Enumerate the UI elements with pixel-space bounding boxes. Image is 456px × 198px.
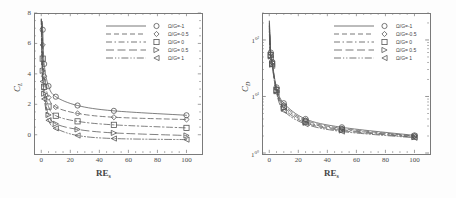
- x-tick-label: 100: [179, 156, 193, 164]
- x-tick-label: 40: [92, 156, 106, 164]
- x-tick-label: 80: [150, 156, 164, 164]
- legend-marker-triangle-left: [152, 54, 161, 62]
- legend-marker-circle: [152, 22, 161, 30]
- legend-line-sample: [106, 26, 146, 27]
- legend-label: Ω/G= 1: [396, 54, 412, 62]
- legend-marker-square: [152, 38, 161, 46]
- legend-line-sample: [334, 26, 374, 27]
- legend-label: Ω/G= 0: [396, 38, 412, 46]
- legend-marker-circle: [380, 22, 389, 30]
- legend-label: Ω/G= 0.5: [168, 46, 188, 54]
- y-tick-label: 10⁰: [242, 149, 259, 159]
- x-tick-label: 100: [407, 156, 421, 164]
- legend-line-sample: [334, 34, 374, 35]
- x-tick-label: 0: [262, 156, 276, 164]
- legend-line-sample: [106, 34, 146, 35]
- y-tick-label: 4: [21, 70, 31, 78]
- legend-marker-square: [380, 38, 389, 46]
- legend-label: Ω/G=-0.5: [396, 30, 417, 38]
- x-tick-label: 60: [349, 156, 363, 164]
- x-tick-label: 20: [63, 156, 77, 164]
- x-tick-label: 0: [34, 156, 48, 164]
- legend-label: Ω/G=-1: [396, 22, 412, 30]
- panel-lift-coefficient: 02040608010002468 CL REs Ω/G=-1Ω/G=-0.5Ω…: [0, 0, 228, 198]
- legend-label: Ω/G= 0: [168, 38, 184, 46]
- legend-marker-triangle-right: [380, 46, 389, 54]
- y-tick-label: 0: [21, 131, 31, 139]
- panel-drag-coefficient: 02040608010010⁰10¹10² CD REs Ω/G=-1Ω/G=-…: [228, 0, 456, 198]
- y-tick-label: 6: [21, 39, 31, 47]
- x-axis-label-drag: REs: [324, 168, 339, 179]
- legend-label: Ω/G= 0.5: [396, 46, 416, 54]
- y-tick-label: 8: [21, 9, 31, 17]
- x-tick-label: 60: [121, 156, 135, 164]
- figure-container: 02040608010002468 CL REs Ω/G=-1Ω/G=-0.5Ω…: [0, 0, 456, 198]
- legend-label: Ω/G=-1: [168, 22, 184, 30]
- legend-marker-triangle-left: [380, 54, 389, 62]
- y-tick-label: 10¹: [242, 92, 259, 101]
- legend-line-sample: [106, 50, 146, 51]
- legend-line-sample: [106, 58, 146, 59]
- plot-canvas-lift: [0, 0, 228, 198]
- legend-line-sample: [334, 50, 374, 51]
- y-axis-label-lift: CL: [12, 83, 23, 92]
- legend-marker-diamond: [380, 30, 389, 38]
- x-tick-label: 80: [378, 156, 392, 164]
- legend-marker-triangle-right: [152, 46, 161, 54]
- legend-line-sample: [334, 42, 374, 43]
- plot-canvas-drag: [228, 0, 456, 198]
- x-tick-label: 20: [291, 156, 305, 164]
- y-tick-label: 10²: [242, 36, 259, 45]
- y-axis-label-drag: CD: [240, 82, 251, 92]
- legend-line-sample: [334, 58, 374, 59]
- x-axis-label-lift: REs: [96, 168, 111, 179]
- legend-marker-diamond: [152, 30, 161, 38]
- legend-line-sample: [106, 42, 146, 43]
- x-tick-label: 40: [320, 156, 334, 164]
- y-tick-label: 2: [21, 100, 31, 108]
- legend-label: Ω/G= 1: [168, 54, 184, 62]
- legend-label: Ω/G=-0.5: [168, 30, 189, 38]
